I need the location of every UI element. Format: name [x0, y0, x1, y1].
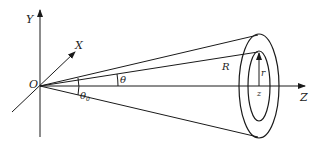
radius-R-label: R — [221, 61, 230, 72]
radius-r-label: r — [261, 68, 266, 78]
diagram-canvas: Y X Z O θ θ0 R r z — [0, 0, 317, 146]
origin-label: O — [29, 78, 38, 91]
theta0-label: θ0 — [80, 90, 90, 102]
theta-label: θ — [120, 74, 126, 85]
z-axis-label: Z — [299, 91, 308, 104]
y-axis-label: Y — [26, 13, 35, 26]
z-point-label: z — [256, 89, 262, 98]
theta-arc — [117, 74, 118, 86]
x-axis-label: X — [74, 39, 84, 52]
